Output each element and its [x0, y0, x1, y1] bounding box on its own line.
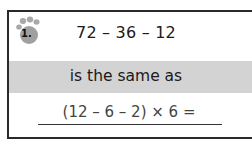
connector-text: is the same as [0, 67, 252, 85]
equivalent-expression: (12 – 6 – 2) × 6 = [0, 103, 252, 121]
problem-expression: 72 – 36 – 12 [0, 23, 252, 42]
answer-line[interactable] [38, 124, 222, 125]
